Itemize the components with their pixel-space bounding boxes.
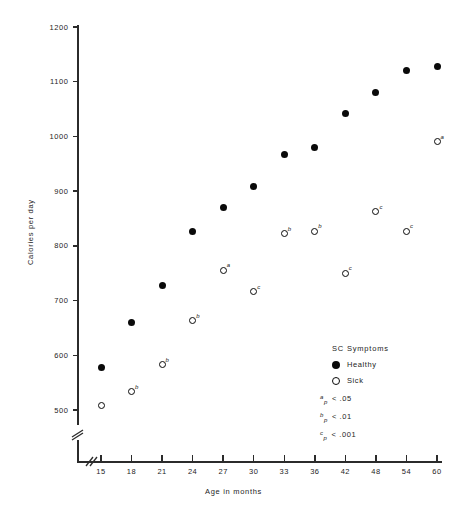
y-tick bbox=[73, 355, 80, 356]
data-point-sick bbox=[189, 317, 196, 324]
x-tick bbox=[436, 455, 437, 462]
x-tick-label: 21 bbox=[148, 467, 176, 476]
x-tick-label: 60 bbox=[423, 467, 451, 476]
data-point-healthy bbox=[250, 183, 257, 190]
data-point-significance-marker: c bbox=[410, 223, 413, 229]
x-tick bbox=[161, 455, 162, 462]
scatter-chart: 500600700800900100011001200 151821242730… bbox=[0, 0, 457, 514]
legend-note-text: < .01 bbox=[332, 412, 352, 421]
y-tick-label: 500 bbox=[31, 406, 69, 415]
legend-note-text: < .001 bbox=[332, 430, 357, 439]
y-tick bbox=[73, 26, 80, 27]
data-point-significance-marker: b bbox=[288, 226, 291, 232]
x-tick bbox=[192, 455, 193, 462]
legend-note: cp< .001 bbox=[320, 430, 450, 439]
legend-significance-notes: ap< .05bp< .01cp< .001 bbox=[318, 394, 450, 439]
x-tick bbox=[100, 455, 101, 462]
data-point-sick bbox=[311, 228, 318, 235]
legend-note-subscript: p bbox=[324, 435, 328, 441]
data-point-significance-marker: a bbox=[227, 262, 230, 268]
legend-note: ap< .05 bbox=[320, 394, 450, 403]
data-point-healthy bbox=[372, 89, 379, 96]
x-tick-label: 54 bbox=[392, 467, 420, 476]
data-point-significance-marker: b bbox=[196, 313, 199, 319]
x-tick bbox=[131, 455, 132, 462]
x-tick-label: 18 bbox=[118, 467, 146, 476]
data-point-sick bbox=[159, 361, 166, 368]
y-tick-label: 1100 bbox=[31, 77, 69, 86]
y-tick bbox=[73, 300, 80, 301]
y-tick-label: 900 bbox=[31, 187, 69, 196]
y-tick-label: 800 bbox=[31, 241, 69, 250]
x-tick-label: 30 bbox=[240, 467, 268, 476]
x-axis-title: Age in months bbox=[205, 487, 262, 496]
x-tick bbox=[314, 455, 315, 462]
data-point-significance-marker: b bbox=[166, 357, 169, 363]
y-tick bbox=[73, 81, 80, 82]
data-point-sick bbox=[281, 230, 288, 237]
x-tick bbox=[284, 455, 285, 462]
data-point-healthy bbox=[434, 63, 441, 70]
y-tick bbox=[73, 190, 80, 191]
legend: SC Symptoms Healthy Sick ap< .05bp< .01c… bbox=[318, 344, 450, 439]
data-point-healthy bbox=[189, 228, 196, 235]
legend-label-healthy: Healthy bbox=[347, 360, 377, 369]
data-point-sick bbox=[220, 267, 227, 274]
data-point-significance-marker: b bbox=[318, 223, 321, 229]
legend-title: SC Symptoms bbox=[332, 344, 450, 353]
legend-note: bp< .01 bbox=[320, 412, 450, 421]
data-point-healthy bbox=[220, 204, 227, 211]
data-point-healthy bbox=[98, 364, 105, 371]
data-point-sick bbox=[98, 402, 105, 409]
x-tick bbox=[222, 455, 223, 462]
data-point-significance-marker: c bbox=[379, 204, 382, 210]
open-circle-icon bbox=[332, 377, 340, 385]
y-tick-label: 1200 bbox=[31, 23, 69, 32]
x-tick bbox=[253, 455, 254, 462]
data-point-healthy bbox=[311, 144, 318, 151]
data-point-significance-marker: c bbox=[349, 265, 352, 271]
y-axis-line bbox=[77, 25, 79, 425]
y-tick bbox=[73, 409, 80, 410]
data-point-healthy bbox=[403, 67, 410, 74]
y-tick bbox=[73, 136, 80, 137]
data-point-sick bbox=[403, 228, 410, 235]
x-tick-label: 15 bbox=[87, 467, 115, 476]
legend-label-sick: Sick bbox=[347, 376, 364, 385]
data-point-sick bbox=[372, 208, 379, 215]
legend-entry-sick: Sick bbox=[332, 376, 450, 385]
data-point-healthy bbox=[281, 151, 288, 158]
data-point-healthy bbox=[159, 282, 166, 289]
x-tick bbox=[406, 455, 407, 462]
legend-note-subscript: p bbox=[324, 399, 328, 405]
x-tick bbox=[345, 455, 346, 462]
y-tick-label: 600 bbox=[31, 351, 69, 360]
x-tick-label: 24 bbox=[179, 467, 207, 476]
y-tick-label: 1000 bbox=[31, 132, 69, 141]
y-tick bbox=[73, 245, 80, 246]
data-point-healthy bbox=[128, 319, 135, 326]
data-point-sick bbox=[434, 138, 441, 145]
data-point-sick bbox=[342, 270, 349, 277]
data-point-sick bbox=[250, 288, 257, 295]
x-tick bbox=[375, 455, 376, 462]
data-point-significance-marker: a bbox=[441, 134, 444, 140]
y-tick-label: 700 bbox=[31, 296, 69, 305]
data-point-significance-marker: b bbox=[135, 384, 138, 390]
legend-entry-healthy: Healthy bbox=[332, 360, 450, 369]
filled-circle-icon bbox=[332, 361, 340, 369]
x-tick-label: 27 bbox=[209, 467, 237, 476]
data-point-healthy bbox=[342, 110, 349, 117]
data-point-significance-marker: c bbox=[257, 284, 260, 290]
data-point-sick bbox=[128, 388, 135, 395]
legend-note-subscript: p bbox=[324, 417, 328, 423]
y-axis-title: Calories per day bbox=[26, 199, 35, 265]
x-tick-label: 33 bbox=[270, 467, 298, 476]
y-axis-stub bbox=[77, 440, 79, 462]
x-tick-label: 42 bbox=[331, 467, 359, 476]
legend-note-text: < .05 bbox=[332, 394, 352, 403]
x-tick-label: 48 bbox=[362, 467, 390, 476]
x-tick-label: 36 bbox=[301, 467, 329, 476]
